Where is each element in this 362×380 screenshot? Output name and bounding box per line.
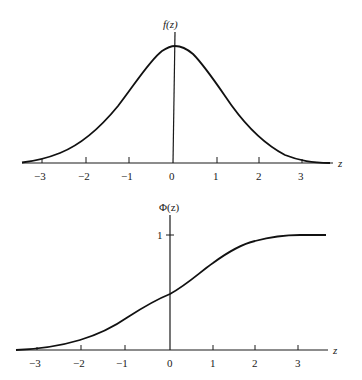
- tick-label: 1: [210, 357, 216, 369]
- x-ticks: [37, 345, 298, 350]
- tick-label: 0: [167, 357, 173, 369]
- tick-label: −3: [34, 170, 46, 182]
- y-tick-label: 1: [157, 229, 163, 241]
- tick-label: 2: [252, 357, 258, 369]
- tick-label: 3: [295, 357, 301, 369]
- pdf-curve: [22, 46, 330, 163]
- x-ticks: [42, 157, 302, 163]
- x-tick-labels: −3 −2 −1 0 1 2 3: [34, 170, 304, 182]
- tick-label: 1: [213, 170, 219, 182]
- y-axis-label: f(z): [163, 18, 178, 31]
- x-tick-labels: −3 −2 −1 0 1 2 3: [29, 357, 301, 369]
- tick-label: 2: [256, 170, 262, 182]
- tick-label: 0: [169, 170, 175, 182]
- pdf-chart: f(z) z −3 −2 −1 0 1 2 3: [22, 18, 343, 182]
- y-axis: [173, 32, 175, 163]
- tick-label: −1: [121, 170, 133, 182]
- figure: f(z) z −3 −2 −1 0 1 2 3 1 Φ(z) z: [0, 0, 362, 380]
- tick-label: −3: [29, 357, 41, 369]
- x-axis-label: z: [337, 157, 343, 169]
- x-axis-label: z: [332, 344, 338, 356]
- tick-label: −2: [73, 357, 85, 369]
- tick-label: −1: [116, 357, 128, 369]
- cdf-chart: 1 Φ(z) z −3 −2 −1 0 1 2 3: [16, 201, 338, 369]
- cdf-curve: [16, 235, 326, 350]
- tick-label: −2: [78, 170, 90, 182]
- y-axis-label: Φ(z): [159, 201, 180, 214]
- tick-label: 3: [298, 170, 304, 182]
